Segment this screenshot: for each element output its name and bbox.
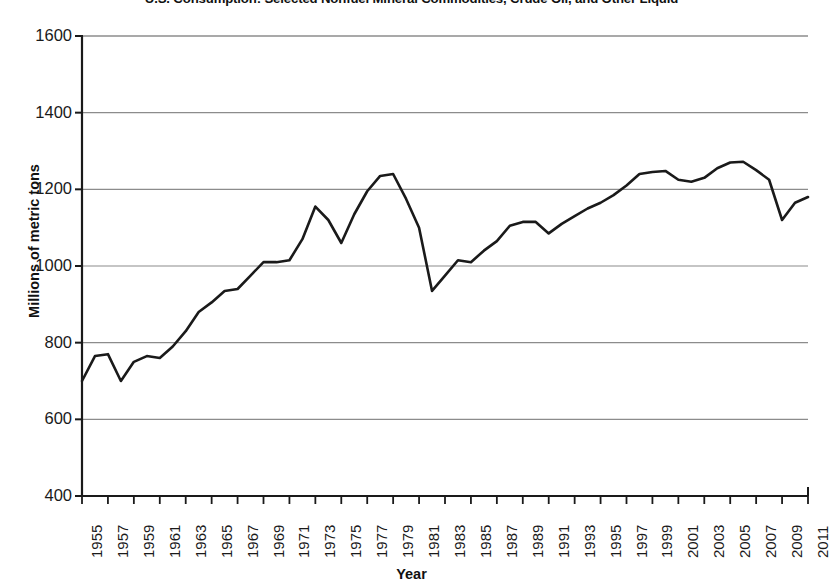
- x-tick-label: 2009: [788, 525, 805, 558]
- x-tick-label: 1999: [658, 525, 675, 558]
- x-tick-marks: [82, 496, 808, 504]
- x-tick-label: 1985: [477, 525, 494, 558]
- y-tick-label: 800: [10, 333, 72, 352]
- x-tick-label: 1997: [633, 525, 650, 558]
- x-tick-label: 1979: [399, 525, 416, 558]
- x-tick-label: 1995: [607, 525, 624, 558]
- x-tick-label: 2011: [814, 526, 831, 558]
- y-tick-label: 400: [10, 486, 72, 505]
- x-tick-label: 1983: [451, 525, 468, 558]
- x-tick-label: 1957: [114, 525, 131, 558]
- x-tick-label: 1991: [555, 525, 572, 558]
- data-series-line: [82, 162, 808, 381]
- y-tick-label: 600: [10, 409, 72, 428]
- y-tick-label: 1200: [10, 179, 72, 198]
- x-tick-label: 1977: [373, 525, 390, 558]
- x-tick-label: 1973: [321, 525, 338, 558]
- x-tick-label: 1959: [140, 525, 157, 558]
- x-tick-label: 1965: [218, 525, 235, 558]
- y-tick-label: 1600: [10, 26, 72, 45]
- x-tick-label: 1981: [425, 525, 442, 558]
- gridlines: [82, 36, 808, 496]
- x-tick-label: 2001: [684, 525, 701, 558]
- x-tick-label: 1969: [270, 525, 287, 558]
- x-tick-label: 1963: [192, 525, 209, 558]
- x-tick-label: 1967: [244, 525, 261, 558]
- x-tick-label: 1987: [503, 525, 520, 558]
- x-tick-label: 1975: [347, 525, 364, 558]
- x-tick-label: 1955: [88, 525, 105, 558]
- x-tick-label: 1993: [581, 525, 598, 558]
- y-tick-label: 1400: [10, 103, 72, 122]
- x-tick-label: 1961: [166, 525, 183, 558]
- x-tick-label: 2007: [762, 525, 779, 558]
- x-tick-label: 2003: [710, 525, 727, 558]
- x-tick-label: 1971: [295, 525, 312, 558]
- x-tick-label: 2005: [736, 525, 753, 558]
- y-tick-label: 1000: [10, 256, 72, 275]
- x-tick-label: 1989: [529, 525, 546, 558]
